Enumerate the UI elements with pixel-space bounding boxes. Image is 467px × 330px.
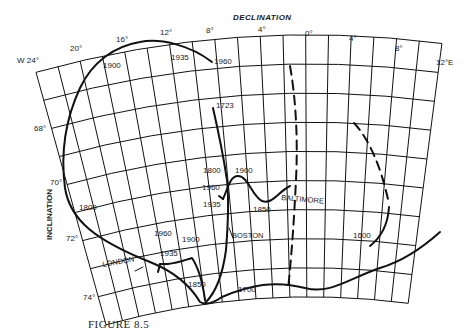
year-label: 1935 bbox=[160, 249, 178, 258]
dec-tick-20w: 20° bbox=[70, 44, 82, 53]
declination-gridline bbox=[341, 36, 352, 298]
dec-tick-12w: 12° bbox=[160, 28, 172, 37]
secular-variation-diagram: DECLINATION INCLINATION W 24° 20° 16° 12… bbox=[0, 0, 467, 330]
inc-tick-70: 70° bbox=[50, 178, 62, 187]
declination-inclination-grid bbox=[36, 35, 442, 325]
boston-1960-tick bbox=[219, 196, 223, 199]
declination-gridline bbox=[125, 52, 172, 310]
dec-tick-8e: 8° bbox=[395, 44, 403, 53]
dec-tick-16w: 16° bbox=[116, 35, 128, 44]
year-label: 1800 bbox=[203, 166, 221, 175]
dec-tick-4w: 4° bbox=[258, 25, 266, 34]
dec-tick-12e: 12°E bbox=[436, 58, 453, 67]
declination-gridline bbox=[260, 36, 273, 298]
year-label: 1960 bbox=[202, 183, 220, 192]
declination-gridline bbox=[306, 35, 307, 297]
declination-gridline bbox=[324, 35, 329, 297]
dec-tick-0: 0° bbox=[305, 29, 313, 38]
year-label: 1850 bbox=[253, 205, 271, 214]
year-label: 1600 bbox=[353, 231, 371, 240]
year-label: 1900 bbox=[235, 166, 253, 175]
inc-tick-68: 68° bbox=[34, 124, 46, 133]
year-label: 1900 bbox=[103, 61, 121, 70]
declination-gridline bbox=[170, 45, 206, 305]
year-label: 1800 bbox=[79, 203, 97, 212]
dec-tick-w24: W 24° bbox=[17, 56, 39, 65]
year-label: 1960 bbox=[214, 57, 232, 66]
inclination-gridline bbox=[106, 297, 408, 325]
year-label: 1850 bbox=[188, 280, 206, 289]
year-label: 1960 bbox=[154, 229, 172, 238]
axis-title-inclination: INCLINATION bbox=[45, 189, 54, 240]
year-label: 1723 bbox=[216, 101, 234, 110]
declination-gridline bbox=[147, 48, 189, 307]
inc-tick-74: 74° bbox=[83, 293, 95, 302]
figure-caption: FIGURE 8.5 bbox=[88, 318, 149, 330]
place-label-boston: BOSTON bbox=[232, 231, 264, 240]
declination-gridline bbox=[358, 37, 374, 299]
year-label: 1900 bbox=[182, 235, 200, 244]
dec-tick-4e: 4° bbox=[349, 34, 357, 43]
inc-tick-72: 72° bbox=[66, 234, 78, 243]
declination-gridline bbox=[283, 35, 290, 297]
place-label-london: LONDON bbox=[102, 255, 135, 269]
axis-title-declination: DECLINATION bbox=[233, 13, 291, 22]
london-pointer bbox=[135, 267, 143, 271]
declination-gridline bbox=[408, 44, 442, 304]
dec-tick-8w: 8° bbox=[206, 26, 214, 35]
baltimore-curve bbox=[223, 176, 290, 202]
year-label: 1700 bbox=[238, 285, 256, 294]
year-label: 1935 bbox=[203, 200, 221, 209]
year-label: 1935 bbox=[171, 53, 189, 62]
declination-gridline bbox=[375, 39, 397, 300]
